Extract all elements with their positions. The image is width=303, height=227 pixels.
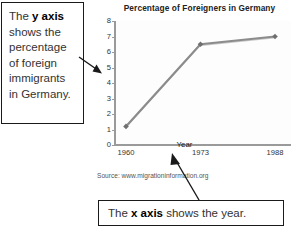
y-tick-label: 7 <box>107 33 111 41</box>
x-tick-label: 1960 <box>118 148 135 157</box>
y-tick-label: 2 <box>107 110 111 118</box>
y-tick-label: 8 <box>107 17 111 25</box>
y-tick-label: 1 <box>107 126 111 134</box>
y-axis-annotation-box: The y axis shows the percentage of forei… <box>1 2 84 124</box>
x-axis-annotation-text: The x axis shows the year. <box>108 207 246 219</box>
plot-area: 876543210 196019731988 <box>114 21 291 145</box>
y-tick-label: 4 <box>107 79 111 87</box>
y-axis-annotation-bold: y axis <box>32 10 64 22</box>
y-axis-annotation-prefix: The <box>9 10 32 22</box>
chart-container: Percentage of Foreigners in Germany 8765… <box>96 0 303 196</box>
x-axis-annotation-bold: x axis <box>131 207 163 219</box>
y-axis-annotation-suffix: shows the percentage of foreign immigran… <box>9 26 71 100</box>
y-tick-label: 3 <box>107 95 111 103</box>
series-polyline-shadow <box>125 38 274 128</box>
x-axis-annotation-suffix: shows the year. <box>163 207 246 219</box>
chart-title: Percentage of Foreigners in Germany <box>96 3 303 13</box>
y-tick-label: 5 <box>107 64 111 72</box>
chart-figure: The y axis shows the percentage of forei… <box>0 0 303 227</box>
data-series-line <box>114 21 291 145</box>
y-tick-label: 6 <box>107 48 111 56</box>
series-polyline <box>126 37 275 127</box>
x-tick-label: 1988 <box>267 148 284 157</box>
x-axis-label: Year <box>96 140 273 149</box>
x-tick-label: 1973 <box>192 148 209 157</box>
source-note: Source: www.migrationinformation.org <box>97 172 208 179</box>
x-axis-annotation-box: The x axis shows the year. <box>98 200 284 226</box>
x-axis-annotation-prefix: The <box>108 207 131 219</box>
